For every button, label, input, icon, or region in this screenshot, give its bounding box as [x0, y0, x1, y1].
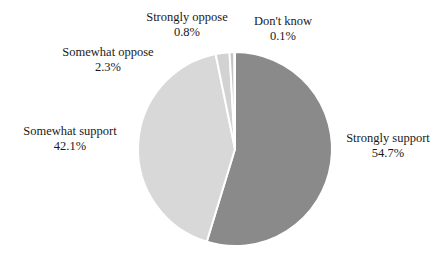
pie-label-strongly-support: Strongly support 54.7% [333, 131, 443, 161]
chart-title-cropped [150, 0, 310, 8]
pie-label-dont-know-name: Don't know [243, 14, 323, 29]
pie-label-dont-know: Don't know 0.1% [243, 14, 323, 44]
pie-label-somewhat-oppose-name: Somewhat oppose [47, 45, 169, 60]
pie-slice-don-t-know [234, 52, 235, 149]
pie-label-somewhat-oppose-value: 2.3% [47, 60, 169, 75]
pie-chart-figure: Strongly oppose 0.8% Don't know 0.1% Som… [0, 0, 444, 258]
pie-label-somewhat-support-value: 42.1% [5, 139, 135, 154]
pie-label-dont-know-value: 0.1% [243, 29, 323, 44]
pie-label-somewhat-support: Somewhat support 42.1% [5, 124, 135, 154]
pie-label-strongly-oppose: Strongly oppose 0.8% [131, 10, 243, 40]
pie-label-somewhat-support-name: Somewhat support [5, 124, 135, 139]
pie-label-strongly-oppose-name: Strongly oppose [131, 10, 243, 25]
pie-label-strongly-oppose-value: 0.8% [131, 25, 243, 40]
pie-label-strongly-support-name: Strongly support [333, 131, 443, 146]
pie-slice-group [138, 52, 332, 246]
pie-label-somewhat-oppose: Somewhat oppose 2.3% [47, 45, 169, 75]
pie-label-strongly-support-value: 54.7% [333, 146, 443, 161]
